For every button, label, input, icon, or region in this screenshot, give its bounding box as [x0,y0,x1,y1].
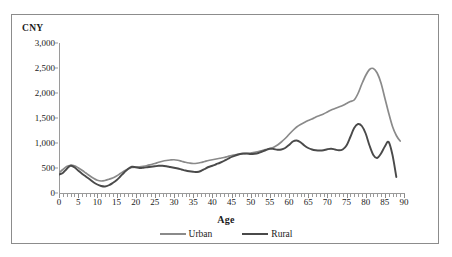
x-axis-tick-label: 45 [227,197,236,207]
x-axis-tick-label: 5 [76,197,81,207]
x-axis-tick-label: 85 [380,197,389,207]
x-axis-tick-label: 20 [131,197,140,207]
y-axis-tick-label: 500 [21,163,55,173]
legend-item-urban[interactable]: Urban [160,229,213,239]
chart-plot-area [59,43,404,193]
y-axis-tick-mark [55,43,58,44]
y-axis-tick-mark [55,143,58,144]
y-axis-tick-mark [55,193,58,194]
x-axis-title: Age [12,214,440,225]
y-axis-tick-label: 1,000 [21,138,55,148]
x-axis-tick-label: 40 [208,197,217,207]
y-axis-tick-mark [55,68,58,69]
legend-item-rural[interactable]: Rural [242,229,292,239]
y-axis-tick-label: 1,500 [21,113,55,123]
y-axis-tick-label: 2,000 [21,88,55,98]
x-axis-tick-label: 70 [323,197,332,207]
y-axis-tick-mark [55,93,58,94]
legend-label-rural: Rural [271,229,292,239]
y-axis-tick-labels: 05001,0001,5002,0002,5003,000 [17,43,55,194]
x-axis-tick-label: 35 [189,197,198,207]
legend-swatch-rural [242,233,268,236]
x-axis-tick-labels: 051015202530354045505560657075808590 [59,197,405,211]
y-axis-tick-label: 3,000 [21,38,55,48]
x-axis-tick-label: 90 [400,197,409,207]
data-series-svg [59,43,404,193]
series-line-rural [59,124,396,187]
x-axis-tick-label: 10 [93,197,102,207]
legend-label-urban: Urban [189,229,213,239]
x-axis-tick-label: 0 [57,197,62,207]
x-axis-tick-label: 80 [361,197,370,207]
x-axis-tick-label: 60 [285,197,294,207]
x-axis-tick-label: 65 [304,197,313,207]
y-axis-tick-label: 0 [21,188,55,198]
x-axis-tick-label: 55 [265,197,274,207]
x-axis-tick-label: 25 [150,197,159,207]
y-axis-tick-mark [55,168,58,169]
y-axis-tick-mark [55,118,58,119]
chart-legend: Urban Rural [12,229,440,239]
legend-swatch-urban [160,233,186,236]
x-axis-tick-label: 15 [112,197,121,207]
y-axis-unit-label: CNY [22,23,43,33]
x-axis-tick-label: 30 [170,197,179,207]
series-line-urban [59,68,400,181]
x-axis-tick-label: 50 [246,197,255,207]
x-axis-tick-label: 75 [342,197,351,207]
clipped-caption-strip [0,0,452,13]
chart-figure-frame: CNY 05001,0001,5002,0002,5003,000 051015… [11,14,439,244]
y-axis-tick-label: 2,500 [21,63,55,73]
